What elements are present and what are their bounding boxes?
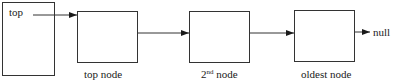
oldest-node-label: oldest node <box>301 68 351 80</box>
null-label: null <box>373 26 390 38</box>
top-node-label: top node <box>84 68 122 80</box>
second-node-label: 2nd node <box>201 68 238 80</box>
second-node-label-rest: node <box>214 68 238 80</box>
second-node-label-sup: nd <box>207 68 214 76</box>
